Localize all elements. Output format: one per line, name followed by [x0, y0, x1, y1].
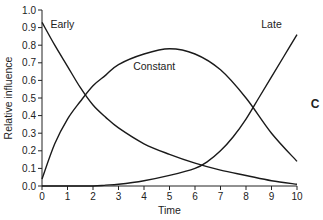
x-tick-label: 6	[192, 191, 198, 202]
line-chart: 0123456789100.00.10.20.30.40.50.60.70.80…	[0, 0, 323, 220]
y-axis-label: Relative influence	[2, 56, 14, 139]
series-label-late: Late	[261, 18, 282, 30]
y-tick-label: 1.0	[22, 5, 36, 16]
y-tick-label: 0.9	[22, 22, 36, 33]
y-tick-label: 0.0	[22, 181, 36, 192]
x-tick-label: 5	[167, 191, 173, 202]
y-tick-label: 0.4	[22, 110, 36, 121]
y-tick-label: 0.7	[22, 57, 36, 68]
series-label-constant: Constant	[133, 60, 175, 72]
panel-label: C	[311, 97, 320, 111]
x-tick-label: 0	[39, 191, 45, 202]
axes: 0123456789100.00.10.20.30.40.50.60.70.80…	[2, 5, 303, 217]
y-tick-label: 0.3	[22, 128, 36, 139]
x-tick-label: 8	[243, 191, 249, 202]
x-tick-label: 3	[116, 191, 122, 202]
curves	[42, 22, 297, 186]
y-tick-label: 0.2	[22, 145, 36, 156]
series-late-line	[42, 35, 297, 186]
x-tick-label: 10	[291, 191, 303, 202]
x-tick-label: 1	[65, 191, 71, 202]
x-tick-label: 9	[269, 191, 275, 202]
x-tick-label: 7	[218, 191, 224, 202]
y-tick-label: 0.5	[22, 93, 36, 104]
series-label-early: Early	[50, 18, 75, 30]
y-tick-label: 0.1	[22, 163, 36, 174]
x-axis-label: Time	[158, 204, 181, 216]
y-tick-label: 0.6	[22, 75, 36, 86]
x-tick-label: 2	[90, 191, 96, 202]
y-tick-label: 0.8	[22, 40, 36, 51]
series-early-line	[42, 22, 297, 184]
x-tick-label: 4	[141, 191, 147, 202]
